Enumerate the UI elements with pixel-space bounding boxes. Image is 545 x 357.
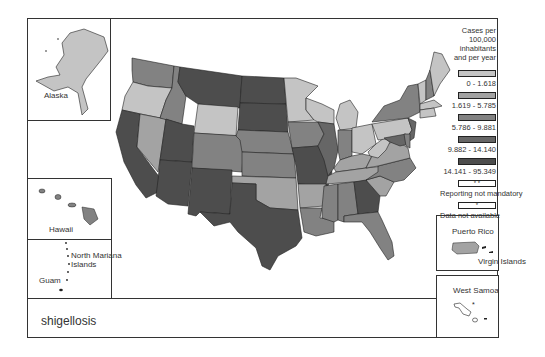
legend-item: 0 - 1.618	[440, 70, 496, 88]
state-nm[interactable]	[188, 168, 232, 216]
legend-item: 14.141 - 95.349	[440, 158, 496, 176]
state-az[interactable]	[156, 160, 192, 206]
legend-swatch	[458, 92, 496, 99]
legend-swatch-not-mandatory: * *	[458, 180, 496, 187]
mariana-guam-inset: North Mariana Islands Guam	[27, 239, 112, 299]
legend-swatch	[458, 158, 496, 165]
state-ct-ri[interactable]	[420, 108, 436, 118]
state-ms[interactable]	[322, 184, 338, 222]
puerto-rico-label: Puerto Rico	[452, 227, 494, 236]
alaska-shape	[28, 19, 112, 122]
hawaii-label: Hawaii	[49, 225, 73, 234]
state-sd[interactable]	[238, 103, 288, 132]
legend-swatch-not-available: *	[458, 202, 496, 209]
legend-swatch	[458, 136, 496, 143]
north-mariana-label-2: Islands	[71, 260, 96, 269]
legend-title: Cases per 100,000 inhabitants and per ye…	[440, 26, 496, 62]
west-samoa-inset: * West Samoa	[436, 275, 499, 338]
state-nd[interactable]	[240, 76, 286, 104]
state-ne[interactable]	[236, 130, 294, 154]
state-ut[interactable]	[160, 119, 194, 162]
state-mi[interactable]	[336, 100, 358, 130]
state-co[interactable]	[192, 133, 244, 172]
west-samoa-label: West Samoa	[453, 286, 499, 295]
alaska-inset: Alaska	[27, 18, 111, 121]
state-in[interactable]	[338, 130, 352, 160]
legend-item: 9.882 - 14.140	[440, 136, 496, 154]
svg-text:*: *	[472, 301, 475, 308]
legend: Cases per 100,000 inhabitants and per ye…	[440, 26, 496, 224]
legend-swatch	[458, 70, 496, 77]
state-ar[interactable]	[298, 184, 326, 208]
legend-item-not-mandatory: * * Reporting not mandatory	[440, 180, 496, 198]
legend-item: 5.786 - 9.881	[440, 114, 496, 132]
hawaii-inset: Hawaii	[27, 178, 112, 240]
alaska-label: Alaska	[44, 91, 68, 100]
virgin-islands-label: Virgin Islands	[478, 257, 526, 266]
legend-swatch	[458, 114, 496, 121]
state-mt[interactable]	[178, 67, 242, 108]
map-title: shigellosis	[41, 314, 96, 328]
state-ia[interactable]	[288, 122, 324, 148]
legend-item-not-available: * Data not available	[440, 202, 496, 220]
guam-label: Guam	[39, 276, 61, 285]
state-fl[interactable]	[344, 212, 394, 260]
title-box	[27, 298, 498, 338]
mariana-islands-shape	[28, 240, 113, 300]
state-ks[interactable]	[242, 152, 296, 178]
legend-item: 1.619 - 5.785	[440, 92, 496, 110]
north-mariana-label: North Mariana	[71, 251, 122, 260]
state-wy[interactable]	[194, 104, 238, 136]
state-ny[interactable]	[372, 84, 420, 122]
